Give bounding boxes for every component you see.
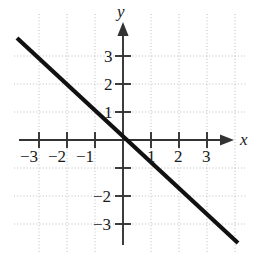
y-tick-label-neg3: −3 (93, 216, 111, 233)
y-tick-label-pos2: 2 (104, 76, 113, 93)
x-tick-label-pos3: 3 (202, 148, 211, 165)
x-axis-label: x (240, 131, 248, 148)
graph-figure: x y −3 −2 −1 1 2 3 3 2 1 −2 −3 (0, 0, 259, 261)
x-tick-label-pos2: 2 (174, 148, 183, 165)
grid-vertical (39, 14, 235, 253)
x-tick-label-neg1: −1 (76, 148, 94, 165)
x-tick-label-neg3: −3 (20, 148, 38, 165)
x-tick-label-neg2: −2 (48, 148, 66, 165)
coordinate-plane-plot (0, 0, 259, 261)
x-tick-label-pos1: 1 (147, 148, 156, 165)
y-tick-label-pos3: 3 (104, 48, 113, 65)
y-tick-label-neg2: −2 (93, 188, 111, 205)
y-tick-label-pos1: 1 (104, 104, 113, 121)
y-axis-label: y (117, 3, 125, 20)
